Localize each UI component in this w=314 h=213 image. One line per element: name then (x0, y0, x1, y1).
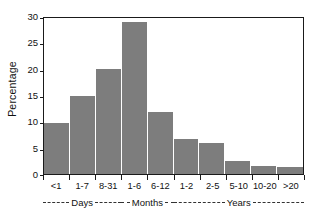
x-tick-label-slot: 5-10 (226, 179, 252, 193)
bar-slot (251, 18, 277, 174)
bar[interactable] (96, 69, 122, 174)
y-tick-mark (40, 71, 44, 72)
bar-slot (148, 18, 174, 174)
x-tick-label: 8-31 (99, 181, 118, 191)
bar-slot (96, 18, 122, 174)
x-axis-group-band: DaysMonthsYears (43, 194, 304, 210)
bar-slot (70, 18, 96, 174)
group-rule-right (253, 202, 304, 203)
x-tick-label: 1-2 (180, 181, 193, 191)
bar-slot (44, 18, 70, 174)
y-tick-mark (40, 123, 44, 124)
bar-slot (199, 18, 225, 174)
bars-container (44, 18, 303, 174)
x-tick-mark (304, 175, 305, 180)
x-tick-label: 1-7 (75, 181, 88, 191)
bar-slot (225, 18, 251, 174)
x-tick-label-slot: 8-31 (95, 179, 121, 193)
x-tick-label-slot: >20 (278, 179, 304, 193)
bar[interactable] (199, 143, 225, 174)
y-tick-label: 25 (27, 39, 38, 49)
bar[interactable] (122, 22, 148, 174)
group-rule-right (165, 202, 174, 203)
y-tick-mark (40, 18, 44, 19)
y-tick-label: 5 (33, 144, 38, 154)
x-axis-group: Months (121, 194, 173, 210)
y-tick-mark (40, 150, 44, 151)
bar-slot (277, 18, 303, 174)
x-tick-label: >20 (283, 181, 299, 191)
bar[interactable] (225, 161, 251, 174)
y-tick-label: 20 (27, 65, 38, 75)
y-axis-title-text: Percentage (6, 61, 18, 117)
y-tick-label: 10 (27, 118, 38, 128)
x-tick-label: 6-12 (151, 181, 170, 191)
group-label: Years (226, 197, 252, 208)
group-rule-left (43, 202, 69, 203)
y-tick-mark (40, 44, 44, 45)
bar[interactable] (174, 139, 200, 174)
x-tick-label-slot: 1-2 (173, 179, 199, 193)
y-tick-label: 0 (33, 170, 38, 180)
plot-area (43, 17, 304, 175)
group-label: Days (70, 197, 94, 208)
x-tick-label: 1-6 (128, 181, 141, 191)
bar[interactable] (44, 123, 70, 174)
group-rule-right (95, 202, 121, 203)
x-tick-label: 2-5 (206, 181, 219, 191)
group-label: Months (131, 197, 164, 208)
group-rule-left (121, 202, 130, 203)
y-tick-label: 15 (27, 91, 38, 101)
x-axis-tick-labels: <11-78-311-66-121-22-55-1010-20>20 (43, 179, 304, 193)
x-tick-label-slot: 10-20 (252, 179, 278, 193)
y-tick-label: 30 (27, 12, 38, 22)
x-tick-label: 10-20 (253, 181, 277, 191)
x-tick-label-slot: <1 (43, 179, 69, 193)
group-rule-left (174, 202, 225, 203)
y-tick-mark (40, 97, 44, 98)
bar-slot (174, 18, 200, 174)
x-tick-label-slot: 1-6 (121, 179, 147, 193)
x-tick-label-slot: 2-5 (200, 179, 226, 193)
chart-figure: Percentage 051015202530 <11-78-311-66-12… (0, 0, 314, 213)
y-axis-tick-labels: 051015202530 (19, 12, 38, 180)
bar-slot (122, 18, 148, 174)
bar[interactable] (70, 96, 96, 174)
x-axis-group: Days (43, 194, 121, 210)
x-tick-label: 5-10 (229, 181, 248, 191)
x-axis-group: Years (174, 194, 305, 210)
x-tick-label-slot: 6-12 (147, 179, 173, 193)
bar[interactable] (277, 167, 303, 174)
bar[interactable] (148, 112, 174, 174)
x-tick-label: <1 (51, 181, 62, 191)
x-tick-label-slot: 1-7 (69, 179, 95, 193)
bar[interactable] (251, 166, 277, 174)
